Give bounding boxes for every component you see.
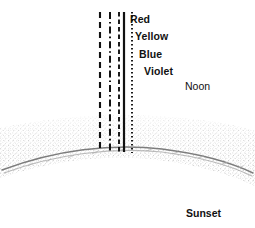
light-rays-layer [0, 0, 255, 228]
ray-label-red: Red [130, 14, 150, 25]
atmospheric-light-penetration-diagram: Red Yellow Blue Violet Noon Sunset [0, 0, 255, 228]
ray-label-blue: Blue [139, 49, 162, 60]
time-label-sunset: Sunset [186, 208, 221, 219]
time-label-noon: Noon [185, 81, 210, 92]
ray-label-violet: Violet [144, 66, 173, 77]
ray-label-yellow: Yellow [135, 31, 168, 42]
